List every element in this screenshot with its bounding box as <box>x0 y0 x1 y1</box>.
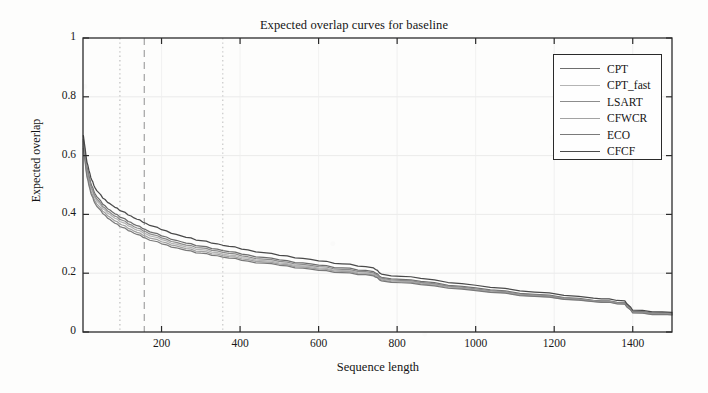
y-tick-label: 0 <box>50 324 76 336</box>
legend-item-label: CFCF <box>607 145 635 157</box>
legend-item-cpt_fast[interactable]: CPT_fast <box>560 77 650 94</box>
series-line-lsart <box>83 141 672 314</box>
legend-line-swatch-icon <box>560 68 600 69</box>
x-tick-label: 1000 <box>451 337 501 349</box>
legend-item-label: LSART <box>607 96 643 108</box>
legend-item-cfcf[interactable]: CFCF <box>560 143 635 160</box>
series-line-cpt <box>83 139 672 313</box>
y-tick-label: 0.4 <box>50 206 76 218</box>
legend-line-swatch-icon <box>560 85 600 86</box>
legend: CPTCPT_fastLSARTCFWCRECOCFCF <box>553 54 662 160</box>
legend-item-lsart[interactable]: LSART <box>560 93 643 110</box>
series-line-cfwcr <box>83 146 672 314</box>
x-tick-label: 1200 <box>529 337 579 349</box>
legend-line-swatch-icon <box>560 118 600 119</box>
y-tick-label: 1 <box>50 30 76 42</box>
x-tick-label: 1400 <box>608 337 658 349</box>
x-tick-label: 600 <box>294 337 344 349</box>
figure-canvas: Expected overlap curves for baseline Exp… <box>0 0 708 393</box>
legend-item-cfwcr[interactable]: CFWCR <box>560 110 647 127</box>
x-tick-label: 200 <box>137 337 187 349</box>
series-line-cfcf <box>83 136 672 313</box>
x-tick-label: 400 <box>215 337 265 349</box>
legend-line-swatch-icon <box>560 151 600 152</box>
series-line-cpt_fast <box>83 144 672 315</box>
series-line-eco <box>83 148 672 315</box>
x-axis-label: Sequence length <box>83 360 673 375</box>
legend-item-eco[interactable]: ECO <box>560 126 630 143</box>
y-tick-label: 0.8 <box>50 89 76 101</box>
legend-item-label: CPT <box>607 63 628 75</box>
legend-line-swatch-icon <box>560 134 600 135</box>
legend-item-label: ECO <box>607 129 630 141</box>
legend-item-label: CFWCR <box>607 112 647 124</box>
y-tick-label: 0.6 <box>50 148 76 160</box>
legend-item-cpt[interactable]: CPT <box>560 60 628 77</box>
y-tick-label: 0.2 <box>50 265 76 277</box>
legend-item-label: CPT_fast <box>607 79 650 91</box>
legend-line-swatch-icon <box>560 101 600 102</box>
x-tick-label: 800 <box>372 337 422 349</box>
